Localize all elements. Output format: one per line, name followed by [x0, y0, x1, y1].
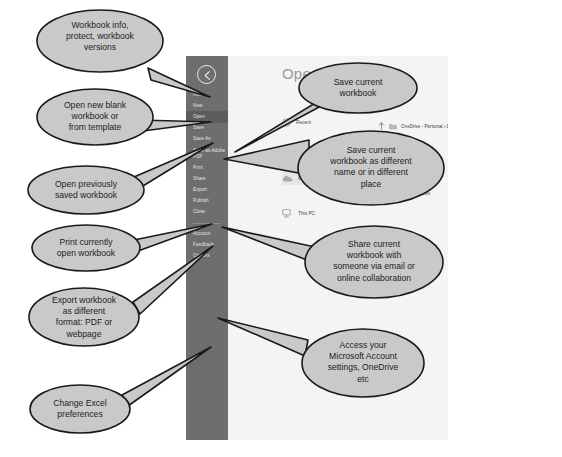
sidebar-item-close[interactable]: Close: [186, 207, 228, 218]
sidebar-item-feedback[interactable]: Feedback: [186, 239, 228, 250]
sidebar-item-info[interactable]: Info: [186, 89, 228, 100]
screenshot-canvas: Info New Open Save Save As Save as Adobe…: [0, 0, 562, 457]
sidebar-item-export[interactable]: Export: [186, 185, 228, 196]
sidebar-item-account[interactable]: Account: [186, 228, 228, 239]
callout-text-new: Open new blank workbook or from template: [37, 100, 153, 134]
cloud-icon: [282, 174, 293, 183]
backstage-menu: Info New Open Save Save As Save as Adobe…: [186, 89, 228, 262]
callout-text-share: Share current workbook with someone via …: [305, 239, 443, 284]
sidebar-item-save-as-adobe-pdf[interactable]: Save as Adobe PDF: [186, 145, 228, 162]
sidebar-item-save-as[interactable]: Save As: [186, 134, 228, 145]
callout-text-save: Save current workbook: [299, 77, 417, 99]
monitor-icon: [282, 209, 293, 218]
sidebar-item-save[interactable]: Save: [186, 123, 228, 134]
callout-text-options: Change Excel preferences: [30, 398, 130, 420]
file-row-excel-final[interactable]: Excel Final.xlsx: [383, 189, 430, 198]
file-name-excel-final: Excel Final.xlsx: [397, 191, 430, 196]
callout-text-open: Open previously saved workbook: [28, 179, 144, 201]
sidebar-item-print[interactable]: Print: [186, 162, 228, 173]
folder-icon: [389, 123, 397, 130]
breadcrumb[interactable]: OneDrive - Personal › Documents: [378, 122, 448, 130]
excel-file-icon: [383, 189, 391, 198]
up-arrow-icon[interactable]: [378, 122, 385, 130]
callout-text-saveas: Save current workbook as different name …: [298, 145, 444, 190]
callout-text-print: Print currently open workbook: [32, 237, 140, 259]
back-arrow-icon: [201, 69, 214, 82]
back-button[interactable]: [197, 65, 216, 84]
place-label-this-pc: This PC: [298, 211, 315, 216]
place-label-recent: Recent: [296, 120, 311, 125]
place-recent[interactable]: Recent: [282, 118, 311, 127]
breadcrumb-path: OneDrive - Personal › Documents: [401, 124, 448, 129]
sidebar-item-options[interactable]: Options: [186, 250, 228, 261]
sidebar-item-open[interactable]: Open: [186, 111, 228, 122]
callout-text-info: Workbook info, protect, workbook version…: [37, 20, 163, 54]
sidebar-item-new[interactable]: New: [186, 100, 228, 111]
sidebar-item-publish[interactable]: Publish: [186, 196, 228, 207]
clock-icon: [282, 118, 291, 127]
sidebar-divider: [193, 223, 221, 224]
backstage-sidebar: Info New Open Save Save As Save as Adobe…: [186, 56, 228, 440]
callout-text-export: Export workbook as different format: PDF…: [29, 295, 139, 340]
callout-text-account: Access your Microsoft Account settings, …: [302, 340, 424, 385]
place-this-pc[interactable]: This PC: [282, 209, 315, 218]
sidebar-item-share[interactable]: Share: [186, 173, 228, 184]
